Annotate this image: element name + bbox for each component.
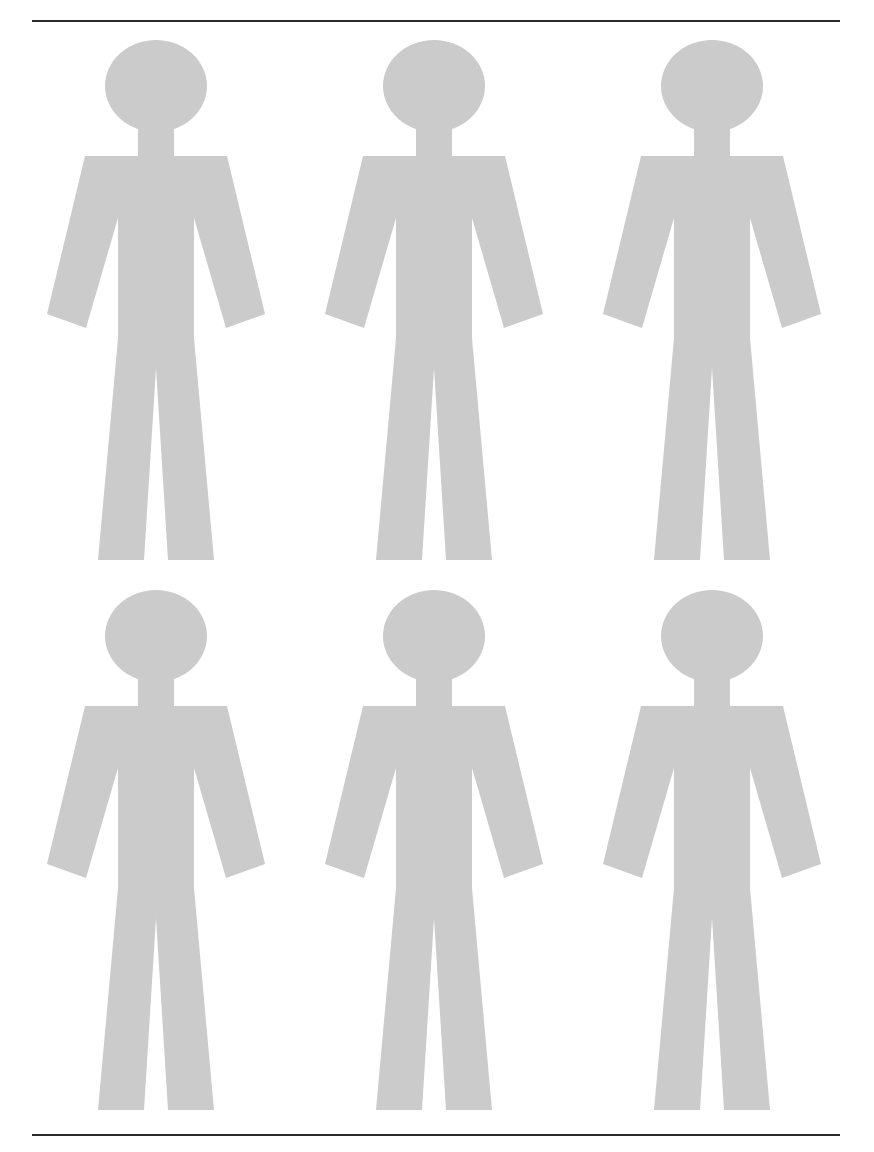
human-figure-icon: [22, 588, 290, 1110]
human-figure-icon: [300, 588, 568, 1110]
human-figure-icon: [300, 38, 568, 560]
page-canvas: [0, 0, 874, 1152]
human-figure-icon: [578, 38, 846, 560]
figure-grid: [0, 0, 874, 1152]
human-figure-icon: [578, 588, 846, 1110]
human-figure-icon: [22, 38, 290, 560]
bottom-horizontal-rule: [32, 1134, 840, 1136]
